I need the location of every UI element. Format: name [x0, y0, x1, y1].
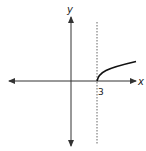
y-axis-label: y [66, 4, 74, 15]
graph-canvas: y x 3 [0, 0, 146, 151]
function-curve [97, 62, 136, 82]
x-axis-label: x [137, 76, 144, 87]
tick-label-3: 3 [98, 87, 104, 97]
